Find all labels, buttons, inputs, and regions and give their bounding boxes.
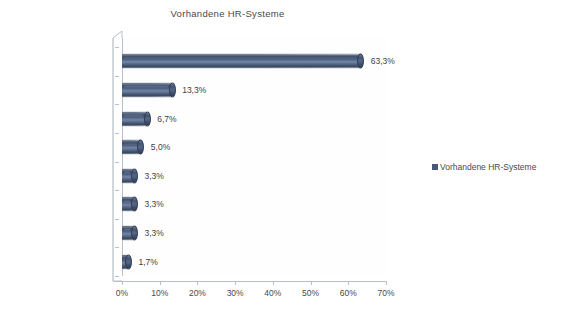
bar-end-cap	[357, 54, 364, 69]
bar[interactable]	[122, 140, 145, 155]
legend-label: Vorhandene HR-Systeme	[440, 162, 536, 172]
bar-value-label: 3,3%	[144, 171, 163, 181]
x-axis-tick-label: 50%	[302, 288, 319, 298]
bar-end-cap	[131, 197, 138, 212]
plot-area: 0%10%20%30%40%50%60%70% 63,3%13,3%6,7%5,…	[118, 38, 386, 282]
y-axis-tick	[115, 76, 119, 77]
x-axis-tick	[311, 281, 312, 285]
bar-value-label: 5,0%	[151, 142, 170, 152]
x-axis-tick	[348, 281, 349, 285]
bar-highlight	[124, 229, 130, 231]
bar-end-cap	[125, 254, 132, 269]
bar-value-label: 13,3%	[182, 85, 206, 95]
x-axis-tick	[386, 281, 387, 285]
bar-highlight	[124, 200, 130, 202]
x-axis-tick-label: 70%	[377, 288, 394, 298]
bar[interactable]	[122, 54, 365, 69]
bar-highlight	[124, 143, 137, 145]
bar-highlight	[124, 57, 357, 59]
x-axis-tick-label: 0%	[116, 288, 128, 298]
x-axis-tick	[160, 281, 161, 285]
x-axis-tick	[235, 281, 236, 285]
bar-body	[122, 82, 172, 97]
bar[interactable]	[122, 168, 138, 183]
chart-back-wall	[122, 38, 387, 276]
y-axis-tick	[115, 247, 119, 248]
y-axis-tick	[115, 47, 119, 48]
x-axis-tick-label: 40%	[264, 288, 281, 298]
chart-legend: Vorhandene HR-Systeme	[432, 162, 536, 172]
x-axis-tick	[197, 281, 198, 285]
y-axis-tick	[115, 133, 119, 134]
y-axis-tick	[115, 104, 119, 105]
bar-end-cap	[169, 82, 176, 97]
bar-highlight	[124, 86, 168, 88]
bar-end-cap	[131, 226, 138, 241]
bar[interactable]	[122, 197, 138, 212]
bar-end-cap	[131, 168, 138, 183]
bar[interactable]	[122, 82, 176, 97]
bar-highlight	[124, 172, 130, 174]
bar-value-label: 6,7%	[157, 114, 176, 124]
y-axis-tick	[115, 276, 119, 277]
bar[interactable]	[122, 254, 132, 269]
x-axis-tick-label: 10%	[151, 288, 168, 298]
x-axis-tick-label: 30%	[227, 288, 244, 298]
bar-highlight	[124, 114, 143, 116]
bar-chart: Vorhandene HR-Systeme 0%10%20%30%40%50%6…	[0, 0, 572, 323]
legend-swatch-icon	[432, 164, 438, 170]
y-axis-tick	[115, 162, 119, 163]
bar-value-label: 3,3%	[144, 228, 163, 238]
bar-body	[122, 54, 361, 69]
axis-depth-riser	[109, 29, 123, 282]
x-axis-tick-label: 20%	[189, 288, 206, 298]
x-axis-tick	[122, 281, 123, 285]
x-axis-line	[113, 281, 386, 282]
bar[interactable]	[122, 111, 151, 126]
y-axis-tick	[115, 190, 119, 191]
bar-value-label: 63,3%	[371, 56, 395, 66]
x-axis-tick	[273, 281, 274, 285]
bar-end-cap	[144, 111, 151, 126]
bar-end-cap	[137, 140, 144, 155]
bar-value-label: 1,7%	[138, 257, 157, 267]
x-axis-tick-label: 60%	[340, 288, 357, 298]
chart-title: Vorhandene HR-Systeme	[0, 8, 455, 19]
y-axis-tick	[115, 219, 119, 220]
bar[interactable]	[122, 226, 138, 241]
bar-value-label: 3,3%	[144, 199, 163, 209]
